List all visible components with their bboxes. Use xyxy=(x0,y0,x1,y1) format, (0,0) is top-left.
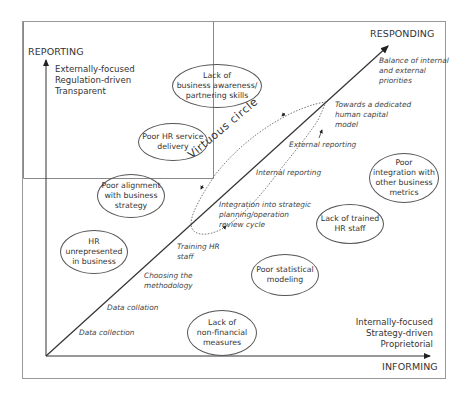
barrier-trained-hr-staff: Lack of trained HR staff xyxy=(316,204,384,244)
barrier-label: Poor HR service delivery xyxy=(142,132,203,152)
barrier-alignment-strategy: Poor alignment with business strategy xyxy=(97,174,165,218)
step-human-capital-model: Towards a dedicated human capital model xyxy=(335,100,411,130)
step-choosing-methodology: Choosing the methodology xyxy=(144,271,193,291)
descriptor: Internally-focused xyxy=(356,317,433,328)
barrier-label: HR unrepresented in business xyxy=(65,237,122,267)
descriptor: Externally-focused xyxy=(55,64,135,75)
barrier-label: Poor alignment with business strategy xyxy=(101,181,160,211)
descriptor: Transparent xyxy=(55,86,135,97)
bottom-right-descriptors: Internally-focused Strategy-driven Propr… xyxy=(356,317,433,350)
barrier-label: Lack of business awareness/ partnering s… xyxy=(177,71,258,101)
step-data-collection: Data collection xyxy=(79,328,134,338)
barrier-label: Poor integration with other business met… xyxy=(373,158,435,198)
barrier-label: Lack of non-financial measures xyxy=(197,318,247,348)
step-training-hr-staff: Training HR staff xyxy=(177,242,220,262)
barrier-non-financial-measures: Lack of non-financial measures xyxy=(187,310,257,356)
x-axis-label: INFORMING xyxy=(382,361,438,372)
barrier-hr-service-delivery: Poor HR service delivery xyxy=(138,123,208,161)
descriptor: Regulation-driven xyxy=(55,75,135,86)
y-axis-label: REPORTING xyxy=(28,46,84,57)
step-balance-priorities: Balance of internal and external priorit… xyxy=(379,56,449,86)
barrier-hr-unrepresented: HR unrepresented in business xyxy=(60,230,128,274)
barrier-business-awareness: Lack of business awareness/ partnering s… xyxy=(172,64,262,108)
diagonal-axis-label: RESPONDING xyxy=(370,28,435,39)
step-integration: Integration into strategic planning/oper… xyxy=(219,200,311,230)
descriptor: Strategy-driven xyxy=(356,328,433,339)
step-internal-reporting: Internal reporting xyxy=(256,168,321,178)
step-data-collation: Data collation xyxy=(107,303,158,313)
barrier-label: Poor statistical modeling xyxy=(256,265,313,285)
descriptor: Proprietorial xyxy=(356,339,433,350)
barrier-label: Lack of trained HR staff xyxy=(321,214,379,234)
barrier-integration-metrics: Poor integration with other business met… xyxy=(369,153,439,203)
barrier-statistical-modeling: Poor statistical modeling xyxy=(251,254,319,296)
step-external-reporting: External reporting xyxy=(289,140,356,150)
top-left-descriptors: Externally-focused Regulation-driven Tra… xyxy=(55,64,135,97)
